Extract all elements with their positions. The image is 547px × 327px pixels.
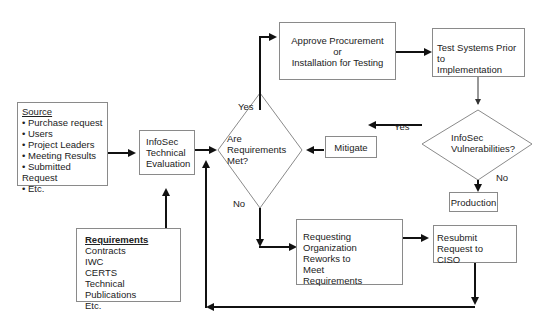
approve-procurement-box: Approve Procurement or Installation for … — [279, 22, 396, 80]
source-item: Users — [22, 128, 103, 139]
rework-box: Requesting Organization Reworks to Meet … — [296, 219, 403, 285]
infosec-evaluation-box: InfoSec Technical Evaluation — [139, 130, 195, 175]
source-box: Source Purchase request Users Project Le… — [17, 102, 108, 186]
requirements-item: IWC — [85, 256, 172, 267]
source-item: Purchase request — [22, 117, 103, 128]
req-met-text: Are Requirements Met? — [227, 133, 286, 166]
source-item: Meeting Results — [22, 150, 103, 161]
source-item: Etc. — [22, 183, 103, 194]
no-label-production: No — [496, 172, 508, 183]
production-box: Production — [449, 192, 498, 212]
vulnerabilities-text: InfoSec Vulnerabilities? — [451, 132, 515, 154]
source-item: Submitted Request — [22, 161, 103, 183]
source-item: Project Leaders — [22, 139, 103, 150]
mitigate-box: Mitigate — [325, 136, 377, 158]
requirements-item: Contracts — [85, 245, 172, 256]
flowchart-canvas: Source Purchase request Users Project Le… — [0, 0, 547, 327]
source-title: Source — [22, 106, 103, 117]
source-list: Purchase request Users Project Leaders M… — [22, 117, 103, 194]
yes-label-mitigate: Yes — [394, 121, 410, 132]
yes-label-approve: Yes — [238, 101, 254, 112]
no-label-rework: No — [233, 198, 245, 209]
requirements-item: Technical Publications — [85, 278, 172, 300]
test-systems-box: Test Systems Prior to Implementation — [432, 28, 525, 77]
resubmit-box: Resubmit Request to CISO — [433, 225, 517, 263]
requirements-item: CERTS — [85, 267, 172, 278]
requirements-box: Requirements Contracts IWC CERTS Technic… — [76, 228, 181, 302]
requirements-item: Etc. — [85, 300, 172, 311]
requirements-title: Requirements — [85, 234, 172, 245]
